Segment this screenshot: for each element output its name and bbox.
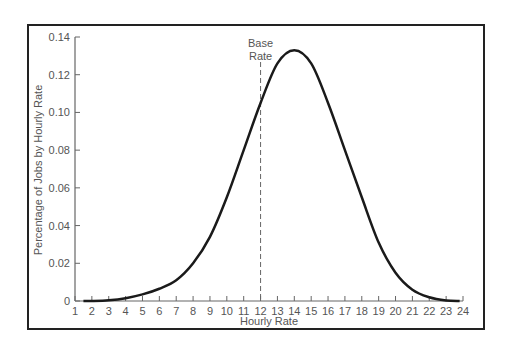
y-tick-label: 0.08 [49,144,70,156]
bell-curve-chart: 00.020.040.060.080.100.120.14 1234567891… [0,0,505,350]
base-rate-label-line2: Rate [249,50,272,62]
y-tick-label: 0.06 [49,182,70,194]
x-tick-label: 16 [322,305,334,317]
y-tick-label: 0 [64,295,70,307]
x-tick-label: 23 [440,305,452,317]
x-tick-label: 6 [156,305,162,317]
x-tick-label: 10 [221,305,233,317]
x-tick-label: 3 [106,305,112,317]
y-tick-label: 0.02 [49,257,70,269]
y-tick-label: 0.10 [49,106,70,118]
x-tick-label: 1 [72,305,78,317]
x-tick-label: 2 [89,305,95,317]
x-tick-label: 15 [305,305,317,317]
x-axis: 123456789101112131415161718192021222324 [72,296,469,317]
x-tick-label: 4 [123,305,129,317]
x-tick-label: 22 [423,305,435,317]
x-tick-label: 24 [457,305,469,317]
x-tick-label: 21 [406,305,418,317]
x-axis-label: Hourly Rate [240,315,298,327]
distribution-curve [83,50,459,301]
x-tick-label: 20 [389,305,401,317]
y-tick-label: 0.14 [49,31,70,43]
y-axis: 00.020.040.060.080.100.120.14 [49,31,80,307]
x-tick-label: 18 [356,305,368,317]
x-tick-label: 19 [373,305,385,317]
x-tick-label: 8 [190,305,196,317]
y-tick-label: 0.04 [49,220,70,232]
x-tick-label: 5 [139,305,145,317]
y-tick-label: 0.12 [49,69,70,81]
y-axis-label: Percentage of Jobs by Hourly Rate [32,85,44,256]
x-tick-label: 17 [339,305,351,317]
x-tick-label: 7 [173,305,179,317]
x-tick-label: 9 [207,305,213,317]
base-rate-label-line1: Base [248,37,273,49]
